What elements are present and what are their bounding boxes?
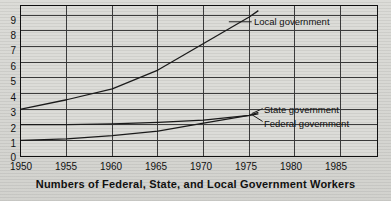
x-tick-label-1980: 1980 <box>274 161 308 172</box>
x-tick-label-1985: 1985 <box>319 161 353 172</box>
x-axis-tick-labels: 1950 1955 1960 1965 1970 1975 1980 1985 <box>0 159 391 175</box>
y-tick-label-9: 9 <box>2 16 16 26</box>
x-tick-label-1955: 1955 <box>49 161 83 172</box>
chart-figure: 9 8 7 6 5 4 3 2 1 0 <box>0 0 391 201</box>
series-line-local-government <box>21 11 258 109</box>
x-tick-label-1975: 1975 <box>229 161 263 172</box>
plot-area: Local government State government Federa… <box>20 5 378 157</box>
chart-caption: Numbers of Federal, State, and Local Gov… <box>0 178 391 190</box>
y-tick-label-1: 1 <box>2 139 16 149</box>
y-axis-tick-labels: 9 8 7 6 5 4 3 2 1 0 <box>0 0 20 162</box>
x-tick-label-1950: 1950 <box>4 161 38 172</box>
y-tick-label-6: 6 <box>2 62 16 72</box>
y-tick-label-7: 7 <box>2 46 16 56</box>
vertical-gridlines <box>67 6 341 156</box>
y-tick-label-8: 8 <box>2 31 16 41</box>
x-tick-label-1970: 1970 <box>184 161 218 172</box>
series-label-federal-government: Federal government <box>264 119 349 129</box>
y-tick-label-3: 3 <box>2 108 16 118</box>
series-label-local-government: Local government <box>254 17 330 27</box>
y-tick-label-5: 5 <box>2 77 16 87</box>
y-tick-label-4: 4 <box>2 93 16 103</box>
series-label-state-government: State government <box>264 105 339 115</box>
plot-svg <box>21 6 377 156</box>
series-line-state-government <box>21 112 258 140</box>
leader-line-federal <box>252 115 263 122</box>
y-tick-label-2: 2 <box>2 124 16 134</box>
x-tick-label-1960: 1960 <box>94 161 128 172</box>
x-tick-label-1965: 1965 <box>139 161 173 172</box>
label-leader-lines <box>229 22 263 122</box>
